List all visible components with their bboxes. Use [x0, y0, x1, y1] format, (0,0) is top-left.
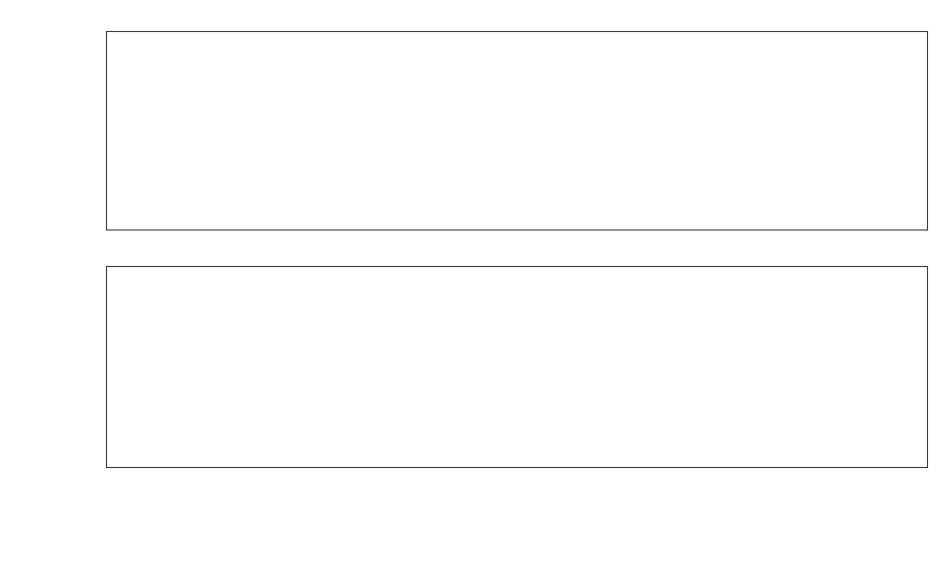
synthetic-control-figure — [0, 0, 951, 572]
figure-background — [0, 0, 951, 572]
figure-canvas — [0, 0, 951, 572]
